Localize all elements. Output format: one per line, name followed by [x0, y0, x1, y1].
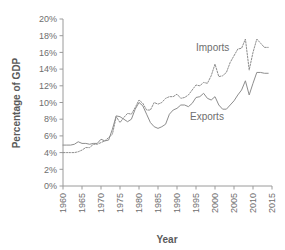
- x-tick-label: 1965: [77, 193, 87, 213]
- x-tick-label: 2010: [248, 193, 258, 213]
- y-tick-label: 8%: [44, 114, 57, 124]
- y-tick-label: 14%: [39, 64, 57, 74]
- y-tick-label: 12%: [39, 81, 57, 91]
- y-tick-label: 2%: [44, 165, 57, 175]
- x-axis-tick-labels: 1960196519701975198019851990199520002005…: [58, 193, 277, 213]
- y-tick-label: 6%: [44, 131, 57, 141]
- x-tick-label: 1975: [115, 193, 125, 213]
- x-tick-label: 1995: [191, 193, 201, 213]
- y-tick-label: 4%: [44, 148, 57, 158]
- y-tick-label: 20%: [39, 14, 57, 24]
- y-tick-label: 16%: [39, 48, 57, 58]
- x-tick-label: 2005: [229, 193, 239, 213]
- y-axis: 0%2%4%6%8%10%12%14%16%18%20%: [39, 14, 63, 191]
- x-tick-label: 1980: [134, 193, 144, 213]
- series-line-exports: [63, 72, 268, 145]
- y-axis-tick-labels: 0%2%4%6%8%10%12%14%16%18%20%: [39, 14, 57, 191]
- x-tick-label: 1970: [96, 193, 106, 213]
- y-tick-label: 18%: [39, 31, 57, 41]
- x-tick-label: 2015: [267, 193, 277, 213]
- annotation-imports: Imports: [196, 42, 229, 53]
- y-tick-label: 0%: [44, 181, 57, 191]
- x-tick-label: 1990: [172, 193, 182, 213]
- x-axis-title: Year: [156, 234, 177, 245]
- y-tick-label: 10%: [39, 98, 57, 108]
- annotation-exports: Exports: [190, 111, 224, 122]
- x-tick-label: 1985: [153, 193, 163, 213]
- chart-container: 0%2%4%6%8%10%12%14%16%18%20% 19601965197…: [0, 0, 285, 250]
- x-tick-label: 2000: [210, 193, 220, 213]
- x-tick-label: 1960: [58, 193, 68, 213]
- series-annotations: ImportsExports: [190, 42, 229, 122]
- data-series-group: [63, 39, 268, 153]
- y-axis-ticks: [60, 19, 64, 186]
- x-axis-ticks: [63, 186, 272, 190]
- trade-percentage-of-gdp-line-chart: 0%2%4%6%8%10%12%14%16%18%20% 19601965197…: [0, 0, 285, 250]
- y-axis-title: Percentage of GDP: [11, 57, 22, 148]
- x-axis: 1960196519701975198019851990199520002005…: [58, 186, 277, 213]
